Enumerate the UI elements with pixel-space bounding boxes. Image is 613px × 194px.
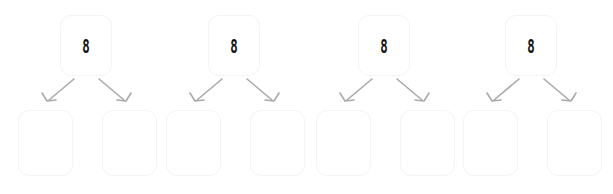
tree-node-root[interactable]: 8 xyxy=(505,15,557,76)
edge-root-to-right-child xyxy=(397,79,422,100)
tree-node-root-label: 8 xyxy=(82,36,89,56)
tree-node-root-label: 8 xyxy=(527,36,534,56)
edge-root-to-left-child xyxy=(494,79,519,100)
tree-node-right-child[interactable] xyxy=(400,110,455,176)
arrowhead-left-child xyxy=(42,93,56,101)
tree-group-1: 8 xyxy=(11,0,164,194)
tree-node-left-child[interactable] xyxy=(18,110,73,176)
tree-node-root[interactable]: 8 xyxy=(60,15,112,76)
arrowhead-right-child xyxy=(415,93,429,101)
diagram-canvas: 8 8 xyxy=(0,0,613,194)
edge-root-to-left-child xyxy=(347,79,372,100)
tree-node-root[interactable]: 8 xyxy=(358,15,410,76)
tree-group-3: 8 xyxy=(309,0,462,194)
edge-root-to-left-child xyxy=(49,79,74,100)
tree-node-left-child[interactable] xyxy=(463,110,518,176)
tree-group-4: 8 xyxy=(456,0,609,194)
tree-node-left-child[interactable] xyxy=(316,110,371,176)
arrowhead-right-child xyxy=(265,93,279,101)
tree-node-right-child[interactable] xyxy=(547,110,602,176)
tree-node-root[interactable]: 8 xyxy=(208,15,260,76)
edge-root-to-left-child xyxy=(197,79,222,100)
tree-node-root-label: 8 xyxy=(380,36,387,56)
edge-root-to-right-child xyxy=(544,79,569,100)
arrowhead-right-child xyxy=(562,93,576,101)
arrowhead-left-child xyxy=(487,93,501,101)
tree-node-right-child[interactable] xyxy=(102,110,157,176)
tree-node-left-child[interactable] xyxy=(166,110,221,176)
tree-node-root-label: 8 xyxy=(230,36,237,56)
arrowhead-right-child xyxy=(117,93,131,101)
edge-root-to-right-child xyxy=(247,79,272,100)
arrowhead-left-child xyxy=(190,93,204,101)
tree-node-right-child[interactable] xyxy=(250,110,305,176)
arrowhead-left-child xyxy=(340,93,354,101)
tree-group-2: 8 xyxy=(159,0,312,194)
edge-root-to-right-child xyxy=(99,79,124,100)
